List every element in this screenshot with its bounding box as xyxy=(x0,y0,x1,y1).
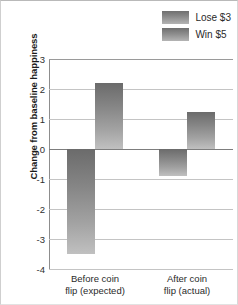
x-axis-category-labels: Before coinflip (expected)After coinflip… xyxy=(49,273,233,303)
y-tick-label: -1 xyxy=(27,174,45,185)
y-axis-tick-labels: 3210-1-2-3-4 xyxy=(23,59,45,269)
bar-lose-3-group-2 xyxy=(159,149,187,176)
y-tick-label: 1 xyxy=(27,114,45,125)
gridline xyxy=(49,269,233,270)
legend-label-win: Win $5 xyxy=(195,28,226,41)
x-category-label-line: flip (actual) xyxy=(141,285,233,297)
y-tick-label: 0 xyxy=(27,144,45,155)
gridline xyxy=(49,89,233,90)
x-category-label-line: flip (expected) xyxy=(49,285,141,297)
chart-legend: Lose $3 Win $5 xyxy=(162,11,231,41)
legend-item-lose: Lose $3 xyxy=(162,11,231,24)
legend-item-win: Win $5 xyxy=(162,28,231,41)
bar-chart-figure: Lose $3 Win $5 Change from baseline happ… xyxy=(0,0,238,305)
y-tick-label: 3 xyxy=(27,54,45,65)
x-category-label-line: After coin xyxy=(141,273,233,285)
legend-label-lose: Lose $3 xyxy=(195,11,231,24)
x-category-label-2: After coinflip (actual) xyxy=(141,273,233,303)
bar-win-5-group-1 xyxy=(95,83,123,149)
bar-win-5-group-2 xyxy=(187,112,215,150)
bar-lose-3-group-1 xyxy=(67,149,95,254)
y-tick-label: -3 xyxy=(27,234,45,245)
x-category-label-line: Before coin xyxy=(49,273,141,285)
legend-swatch-win-icon xyxy=(162,28,189,41)
y-tick-label: -2 xyxy=(27,204,45,215)
y-tick-label: -4 xyxy=(27,264,45,275)
plot-area xyxy=(49,59,233,269)
x-category-label-1: Before coinflip (expected) xyxy=(49,273,141,303)
y-tick-label: 2 xyxy=(27,84,45,95)
gridline xyxy=(49,59,233,60)
legend-swatch-lose-icon xyxy=(162,11,189,24)
